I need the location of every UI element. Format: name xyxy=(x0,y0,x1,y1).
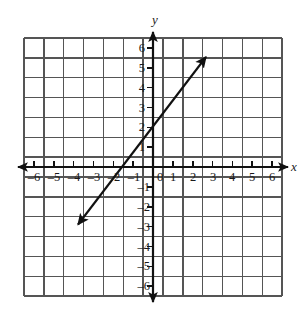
axes xyxy=(18,32,288,302)
y-tick-label: 5 xyxy=(139,61,145,75)
y-tick-label: –4 xyxy=(137,240,151,254)
x-tick-label: 3 xyxy=(210,170,216,184)
y-tick-label: –1 xyxy=(137,180,151,194)
x-tick-label: –6 xyxy=(27,170,41,184)
x-tick-label: –3 xyxy=(87,170,101,184)
origin-label: 0 xyxy=(157,170,163,184)
x-axis-label: x xyxy=(290,159,297,174)
y-tick-label: 4 xyxy=(139,81,146,95)
y-tick-label: 6 xyxy=(139,41,145,55)
y-tick-label: –5 xyxy=(137,259,151,273)
x-tick-label: –2 xyxy=(107,170,121,184)
x-tick-label: –4 xyxy=(67,170,81,184)
y-tick-label: –3 xyxy=(137,220,151,234)
coordinate-plane-figure: –6 –5 –4 –3 –2 –1 1 2 3 4 5 6 6 5 4 3 2 … xyxy=(0,0,306,323)
x-tick-label: 4 xyxy=(229,170,236,184)
y-tick-label: –6 xyxy=(137,279,151,293)
x-tick-label: 2 xyxy=(190,170,196,184)
x-tick-label: 1 xyxy=(170,170,176,184)
coordinate-plane-svg: –6 –5 –4 –3 –2 –1 1 2 3 4 5 6 6 5 4 3 2 … xyxy=(0,0,306,323)
y-axis-label: y xyxy=(150,12,158,27)
x-tick-label: 6 xyxy=(269,170,275,184)
y-tick-label: 2 xyxy=(139,120,145,134)
y-tick-label: –2 xyxy=(137,200,151,214)
y-tick-label: 1 xyxy=(139,140,145,154)
x-tick-label: –5 xyxy=(47,170,61,184)
x-tick-label: 5 xyxy=(249,170,255,184)
y-tick-label: 3 xyxy=(139,101,145,115)
